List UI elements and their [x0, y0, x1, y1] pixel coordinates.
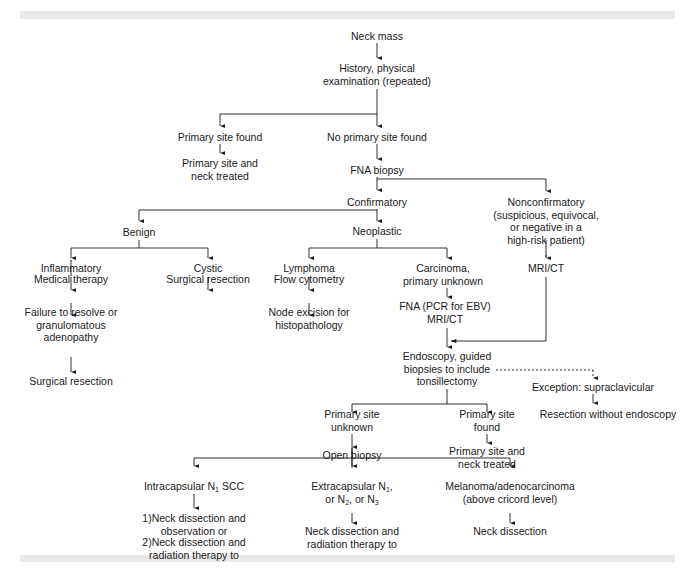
node-option-2: 2)Neck dissection and radiation therapy …: [142, 536, 245, 561]
node-primary-site-treated-bottom: Primary site and neck treated: [449, 445, 525, 470]
node-confirmatory: Confirmatory: [347, 196, 407, 209]
node-endoscopy: Endoscopy, guided biopsies to include to…: [403, 350, 492, 388]
node-surgical-resection-cystic: Surgical resection: [166, 273, 249, 286]
node-fna-biopsy: FNA biopsy: [350, 164, 404, 177]
node-extracapsular: Extracapsular N1, or N2, or N3: [311, 480, 393, 505]
node-neck-mass: Neck mass: [351, 30, 403, 43]
node-failure-to-resolve: Failure to resolve or granulomatous aden…: [25, 306, 118, 344]
node-mri-ct-right: MRI/CT: [528, 262, 564, 275]
node-neck-dissection: Neck dissection: [473, 525, 547, 538]
node-melanoma: Melanoma/adenocarcinoma (above cricord l…: [445, 480, 575, 505]
node-primary-site-unknown: Primary site unknown: [324, 408, 379, 433]
node-medical-therapy-label: Medical therapy: [34, 273, 108, 286]
node-no-primary-site-found: No primary site found: [327, 131, 427, 144]
node-benign: Benign: [123, 226, 156, 239]
node-surgical-resection-inflammatory: Surgical resection: [29, 375, 112, 388]
node-fna-pcr: FNA (PCR for EBV) MRI/CT: [399, 300, 491, 325]
node-primary-site-found-bottom: Primary site found: [459, 408, 514, 433]
node-history: History, physical examination (repeated): [323, 62, 431, 87]
node-resection-without-endoscopy: Resection without endoscopy: [540, 408, 677, 421]
node-neck-dissection-radiation: Neck dissection and radiation therapy to: [305, 525, 399, 550]
node-open-biopsy: Open biopsy: [323, 449, 382, 462]
node-carcinoma: Carcinoma, primary unknown: [403, 262, 483, 287]
node-flow-cytometry: Flow cytometry: [274, 273, 345, 286]
node-intracapsular: Intracapsular N1 SCC: [144, 480, 244, 493]
node-nonconfirmatory: Nonconfirmatory (suspicious, equivocal, …: [493, 196, 599, 246]
node-primary-site-treated-top: Primary site and neck treated: [182, 157, 258, 182]
node-node-excision: Node excision for histopathology: [268, 306, 349, 331]
node-neoplastic: Neoplastic: [352, 225, 401, 238]
node-option-1: 1)Neck dissection and observation or: [142, 512, 245, 537]
node-exception-supraclavicular: Exception: supraclavicular: [532, 381, 654, 394]
node-primary-site-found-top: Primary site found: [178, 131, 263, 144]
